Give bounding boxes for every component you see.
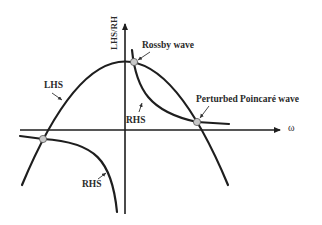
rossby-intersection-point — [130, 58, 137, 65]
rhs-lower-label-group: RHS — [82, 173, 106, 189]
x-axis-label: ω — [288, 122, 295, 133]
poincare-pointer-icon — [200, 106, 209, 118]
poincare-intersection-point — [193, 118, 200, 125]
rhs-upper-curve — [132, 50, 229, 124]
poincare-label-group: Perturbed Poincaré wave — [196, 94, 299, 118]
dispersion-diagram: LHS/RH ω LHS RHS RHS Rossby wave Perturb… — [0, 0, 322, 225]
lhs-pointer-icon — [52, 93, 62, 100]
rossby-wave-label: Rossby wave — [142, 40, 194, 50]
lhs-label-group: LHS — [44, 80, 63, 100]
rhs-upper-pointer-icon — [139, 103, 142, 112]
left-intersection-point — [39, 135, 46, 142]
lhs-label: LHS — [44, 80, 63, 90]
rossby-label-group: Rossby wave — [138, 40, 194, 60]
rhs-lower-label: RHS — [82, 179, 102, 189]
rhs-lower-pointer-icon — [98, 173, 106, 179]
rhs-upper-label-group: RHS — [126, 103, 146, 125]
rhs-lower-curve — [20, 136, 117, 212]
rhs-upper-label: RHS — [126, 115, 146, 125]
y-axis-label: LHS/RH — [109, 16, 119, 50]
poincare-wave-label: Perturbed Poincaré wave — [196, 94, 299, 104]
rossby-pointer-icon — [138, 52, 150, 60]
